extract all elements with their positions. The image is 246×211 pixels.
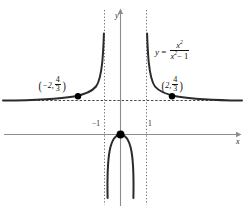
left-point-x-value: −2, bbox=[42, 81, 53, 90]
equation-denominator-rest: − 1 bbox=[177, 51, 188, 61]
marked-point-right bbox=[169, 93, 175, 99]
x-axis-label: x bbox=[236, 138, 240, 146]
equation-lhs: y bbox=[155, 47, 159, 57]
equation-numerator-exponent: 2 bbox=[180, 39, 183, 45]
left-point-paren-close: ) bbox=[62, 79, 65, 92]
left-point-paren-open: ( bbox=[38, 79, 41, 92]
equation-denominator: x2− 1 bbox=[170, 51, 190, 61]
left-point-denominator: 3 bbox=[55, 85, 61, 93]
right-point-label: (2,43) bbox=[161, 76, 184, 94]
right-point-fraction: 43 bbox=[172, 76, 178, 94]
equation-equals: = bbox=[161, 47, 166, 57]
y-axis bbox=[118, 9, 123, 207]
equation-label: y = x2 x2− 1 bbox=[155, 40, 190, 61]
right-point-paren-close: ) bbox=[180, 79, 183, 92]
right-point-paren-open: ( bbox=[161, 79, 164, 92]
equation-fraction: x2 x2− 1 bbox=[170, 40, 190, 61]
graph-canvas bbox=[0, 0, 246, 211]
marked-point-left bbox=[75, 93, 81, 99]
y-axis-label: y bbox=[115, 12, 119, 20]
right-point-denominator: 3 bbox=[172, 85, 178, 93]
function-graph-figure: y x −1 1 (−2,43) (2,43) y = x2 x2− 1 bbox=[0, 0, 246, 211]
right-point-x-value: 2, bbox=[165, 81, 171, 90]
equation-numerator: x2 bbox=[170, 40, 190, 51]
x-tick-label-one: 1 bbox=[148, 120, 152, 128]
x-tick-label-neg-one: −1 bbox=[92, 120, 100, 128]
marked-point-origin bbox=[117, 131, 125, 139]
left-point-fraction: 43 bbox=[55, 76, 61, 94]
left-point-label: (−2,43) bbox=[38, 76, 66, 94]
